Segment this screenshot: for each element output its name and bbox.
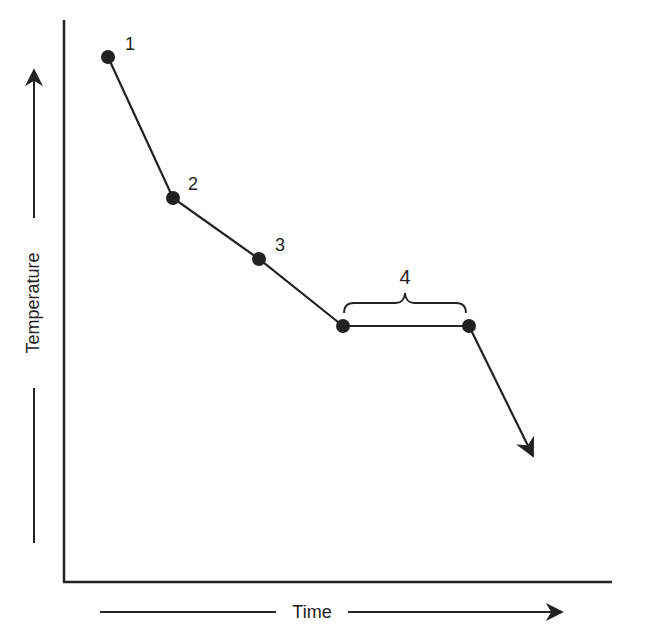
point-2: [166, 191, 180, 205]
y-axis-label: Temperature: [23, 252, 43, 353]
point-4-start: [336, 319, 350, 333]
cooling-curve-line: [108, 57, 469, 326]
plateau-label: 4: [399, 266, 410, 288]
point-1: [101, 50, 115, 64]
point-3: [252, 252, 266, 266]
cooling-curve-diagram: Temperature Time 1 2 3 4: [0, 0, 648, 638]
x-axis-label: Time: [292, 602, 331, 622]
point-3-label: 3: [275, 235, 285, 255]
plateau-brace: [344, 293, 466, 313]
point-1-label: 1: [125, 34, 135, 54]
point-4-end: [462, 319, 476, 333]
point-2-label: 2: [188, 174, 198, 194]
final-cooling-arrow: [469, 326, 533, 456]
